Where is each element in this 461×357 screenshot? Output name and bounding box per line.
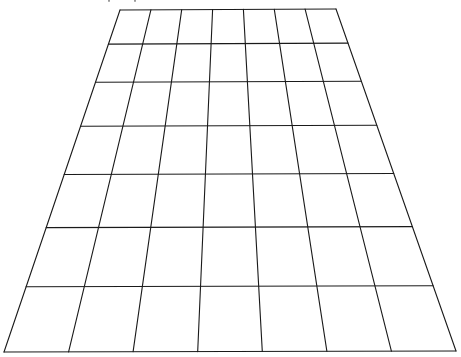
grid-horizontal-line xyxy=(4,351,456,352)
perspective-grid xyxy=(0,0,461,357)
horizontal-lines xyxy=(4,9,456,352)
grid-vertical-line xyxy=(243,9,262,351)
grid-vertical-line xyxy=(4,10,120,352)
grid-vertical-line xyxy=(133,10,182,352)
grid-horizontal-line xyxy=(46,227,412,228)
vertical-lines xyxy=(4,9,456,352)
grid-horizontal-line xyxy=(81,125,377,126)
grid-vertical-line xyxy=(336,9,456,351)
grid-vertical-line xyxy=(305,9,391,351)
grid-vertical-line xyxy=(274,9,327,351)
grid-vertical-line xyxy=(69,10,151,352)
grid-horizontal-line xyxy=(64,174,394,175)
grid-horizontal-line xyxy=(120,9,336,10)
grid-horizontal-line xyxy=(26,286,433,287)
grid-horizontal-line xyxy=(96,81,362,82)
grid-horizontal-line xyxy=(108,43,348,44)
grid-vertical-line xyxy=(198,10,213,352)
